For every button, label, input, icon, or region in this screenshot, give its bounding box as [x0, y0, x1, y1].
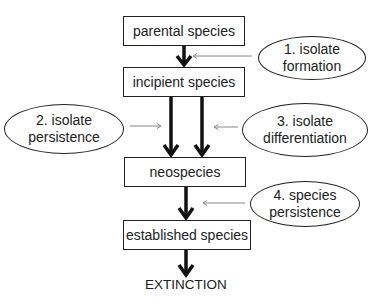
box-incipient-species-label: incipient species: [133, 74, 236, 90]
arrow-established-to-extinction: [179, 250, 193, 275]
terminal-extinction: EXTINCTION: [136, 277, 236, 292]
stage-1-line1: 1. isolate: [284, 41, 340, 58]
pointer-stage-3: [214, 125, 238, 130]
box-neospecies-label: neospecies: [150, 164, 221, 180]
ellipse-stage-3: 3. isolate differentiation: [242, 103, 368, 157]
stage-3-line2: differentiation: [263, 130, 347, 147]
box-parental-species: parental species: [123, 16, 245, 46]
stage-2-line2: persistence: [28, 129, 100, 146]
pointer-stage-4: [203, 201, 245, 206]
ellipse-stage-1: 1. isolate formation: [258, 36, 366, 80]
box-established-species: established species: [123, 220, 251, 250]
arrow-parental-to-incipient: [177, 46, 191, 65]
stage-1-line2: formation: [283, 58, 341, 75]
stage-2-line1: 2. isolate: [36, 112, 92, 129]
stage-3-line1: 3. isolate: [277, 113, 333, 130]
arrow-neospecies-to-established: [179, 187, 193, 218]
stage-4-line1: 4. species: [273, 187, 336, 204]
pointer-stage-1: [193, 54, 252, 59]
stage-4-line2: persistence: [269, 204, 341, 221]
arrow-incipient-to-neospecies-right: [195, 97, 209, 155]
box-parental-species-label: parental species: [133, 23, 235, 39]
box-neospecies: neospecies: [124, 157, 246, 187]
box-established-species-label: established species: [126, 227, 248, 243]
box-incipient-species: incipient species: [123, 67, 245, 97]
ellipse-stage-2: 2. isolate persistence: [4, 104, 124, 154]
ellipse-stage-4: 4. species persistence: [250, 181, 360, 227]
arrow-incipient-to-neospecies-left: [164, 97, 178, 155]
pointer-stage-2: [130, 124, 161, 129]
